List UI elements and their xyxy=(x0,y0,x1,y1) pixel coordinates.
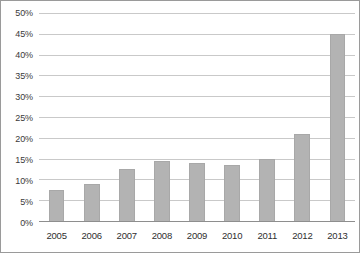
bar[interactable] xyxy=(49,190,65,221)
x-axis-tick-label: 2006 xyxy=(81,230,101,241)
x-axis-tick-label: 2007 xyxy=(117,230,137,241)
bar-slot xyxy=(285,13,320,221)
x-tick-slot: 2006 xyxy=(74,225,109,245)
x-tick-slot: 2013 xyxy=(320,225,355,245)
x-tick-slot: 2012 xyxy=(285,225,320,245)
y-axis-tick-label: 0% xyxy=(0,218,33,228)
y-axis-tick-label: 15% xyxy=(0,155,33,165)
y-axis-tick-label: 30% xyxy=(0,92,33,102)
x-axis-tick-label: 2011 xyxy=(257,230,277,241)
x-tick-slot: 2007 xyxy=(109,225,144,245)
y-axis-tick-label: 40% xyxy=(0,50,33,60)
bar-slot xyxy=(179,13,214,221)
bar[interactable] xyxy=(119,169,135,221)
x-axis-tick-label: 2005 xyxy=(46,230,66,241)
x-axis-tick-label: 2008 xyxy=(152,230,172,241)
x-tick-slot: 2011 xyxy=(250,225,285,245)
y-axis-tick-label: 5% xyxy=(0,197,33,207)
bar-slot xyxy=(39,13,74,221)
x-axis-tick-labels: 200520062007200820092010201120122013 xyxy=(39,225,355,245)
x-tick-slot: 2009 xyxy=(179,225,214,245)
y-axis-tick-label: 20% xyxy=(0,134,33,144)
x-axis-tick-label: 2013 xyxy=(327,230,347,241)
bar-slot xyxy=(320,13,355,221)
bar-slot xyxy=(215,13,250,221)
bar-slot xyxy=(250,13,285,221)
bar-slot xyxy=(144,13,179,221)
plot-area xyxy=(39,13,355,221)
y-axis-tick-label: 50% xyxy=(0,8,33,18)
bar[interactable] xyxy=(259,159,275,221)
axis-baseline xyxy=(39,221,355,222)
x-tick-slot: 2005 xyxy=(39,225,74,245)
bar[interactable] xyxy=(224,165,240,221)
bar[interactable] xyxy=(84,184,100,221)
bar[interactable] xyxy=(294,134,310,221)
bars-group xyxy=(39,13,355,221)
bar-slot xyxy=(74,13,109,221)
bar[interactable] xyxy=(154,161,170,221)
x-axis-tick-label: 2012 xyxy=(292,230,312,241)
bar[interactable] xyxy=(189,163,205,221)
y-axis-tick-label: 25% xyxy=(0,113,33,123)
y-axis-tick-label: 10% xyxy=(0,176,33,186)
bar[interactable] xyxy=(330,34,346,221)
x-tick-slot: 2010 xyxy=(215,225,250,245)
x-tick-slot: 2008 xyxy=(144,225,179,245)
x-axis-tick-label: 2009 xyxy=(187,230,207,241)
y-axis-tick-label: 35% xyxy=(0,71,33,81)
bar-slot xyxy=(109,13,144,221)
bar-chart-figure: 0%5%10%15%20%25%30%35%40%45%50% 20052006… xyxy=(0,0,360,253)
y-axis-tick-label: 45% xyxy=(0,29,33,39)
x-axis-tick-label: 2010 xyxy=(222,230,242,241)
